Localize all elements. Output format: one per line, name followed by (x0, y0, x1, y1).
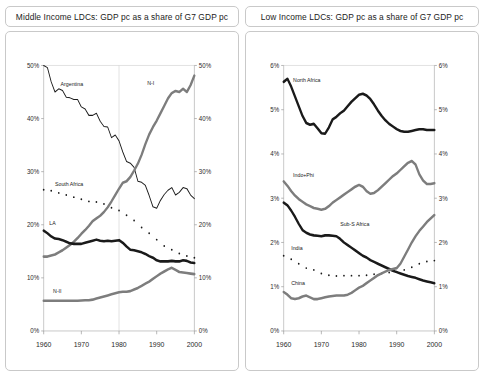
x-axis-tick-label: 1970 (74, 339, 89, 349)
panel-low-income: Low Income LDCs: GDP pc as a share of G7… (245, 6, 479, 371)
y-axis-tick-label-right: 0% (439, 327, 448, 334)
y-axis-tick-label-right: 30% (199, 168, 211, 175)
series-label-n-ii: N-II (53, 288, 62, 294)
x-axis-tick-label: 1970 (314, 339, 329, 349)
y-axis-tick-label-right: 0% (199, 327, 208, 334)
series-label-argentina: Argentina (61, 80, 84, 86)
y-axis-tick-label-right: 50% (199, 62, 211, 69)
series-line-china (284, 215, 435, 299)
y-axis-tick-label-left: 6% (270, 62, 279, 69)
x-axis-tick-label: 1960 (36, 339, 51, 349)
y-axis-tick-label-right: 3% (439, 194, 448, 201)
y-axis-tick-label-right: 6% (439, 62, 448, 69)
y-axis-tick-label-right: 2% (439, 239, 448, 246)
y-axis-tick-label-right: 40% (199, 115, 211, 122)
series-label-india: India (291, 245, 303, 251)
y-axis-tick-label-left: 30% (27, 168, 39, 175)
plot-area-low-income: 0%0%1%1%2%2%3%3%4%4%5%5%6%6%196019701980… (245, 31, 479, 371)
y-axis-tick-label-right: 20% (199, 221, 211, 228)
y-axis-tick-label-left: 10% (27, 274, 39, 281)
chart-svg-low-income: 0%0%1%1%2%2%3%3%4%4%5%5%6%6%196019701980… (246, 32, 478, 370)
y-axis-tick-label-left: 0% (270, 327, 279, 334)
y-axis-tick-label-left: 20% (27, 221, 39, 228)
x-axis-tick-label: 1990 (389, 339, 404, 349)
panel-middle-income: Middle Income LDCs: GDP pc as a share of… (5, 6, 239, 371)
y-axis-tick-label-left: 40% (27, 115, 39, 122)
series-label-la: LA (49, 219, 56, 225)
y-axis-tick-label-left: 0% (30, 327, 39, 334)
series-label-south-africa: South Africa (55, 181, 84, 187)
x-axis-tick-label: 1980 (111, 339, 126, 349)
x-axis-tick-label: 2000 (427, 339, 442, 349)
series-line-indo-phi (284, 161, 435, 210)
series-label-north-africa: North Africa (293, 77, 321, 83)
y-axis-tick-label-right: 10% (199, 274, 211, 281)
y-axis-tick-label-left: 4% (270, 150, 279, 157)
y-axis-tick-label-left: 1% (270, 283, 279, 290)
panel-title-middle-income: Middle Income LDCs: GDP pc as a share of… (5, 6, 239, 27)
chart-svg-middle-income: 0%0%10%10%20%20%30%30%40%40%50%50%196019… (6, 32, 238, 370)
y-axis-tick-label-left: 3% (270, 194, 279, 201)
y-axis-tick-label-left: 5% (270, 106, 279, 113)
y-axis-tick-label-right: 1% (439, 283, 448, 290)
series-line-india (283, 255, 435, 277)
charts-container: Middle Income LDCs: GDP pc as a share of… (0, 0, 484, 379)
x-axis-tick-label: 1980 (351, 339, 366, 349)
y-axis-tick-label-left: 50% (27, 62, 39, 69)
x-axis-tick-label: 1960 (276, 339, 291, 349)
series-label-indo-phi: Indo+Phi (293, 172, 314, 178)
series-label-china: China (291, 280, 306, 286)
x-axis-tick-label: 2000 (187, 339, 202, 349)
series-label-n-i: N-I (147, 80, 154, 86)
plot-area-middle-income: 0%0%10%10%20%20%30%30%40%40%50%50%196019… (5, 31, 239, 371)
x-axis-tick-label: 1990 (149, 339, 164, 349)
y-axis-tick-label-right: 5% (439, 106, 448, 113)
series-label-sub-s-africa: Sub-S Africa (340, 220, 370, 226)
y-axis-tick-label-left: 2% (270, 239, 279, 246)
panel-title-low-income: Low Income LDCs: GDP pc as a share of G7… (245, 6, 479, 27)
y-axis-tick-label-right: 4% (439, 150, 448, 157)
series-line-north-africa (284, 79, 435, 134)
